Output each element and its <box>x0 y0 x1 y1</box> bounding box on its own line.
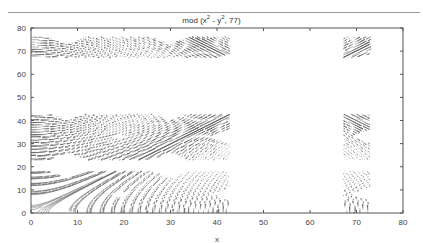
contour-lines <box>31 37 371 213</box>
x-tick-label: 60 <box>306 218 315 227</box>
y-tick-label: 80 <box>17 24 26 33</box>
x-tick-label: 80 <box>399 218 408 227</box>
contour-path <box>31 37 371 213</box>
y-tick-label: 70 <box>17 47 26 56</box>
y-tick-label: 40 <box>17 117 26 126</box>
x-axis-label: x <box>215 235 219 243</box>
y-tick-label: 60 <box>17 70 26 79</box>
x-tick-label: 50 <box>259 218 268 227</box>
x-tick-label: 40 <box>213 218 222 227</box>
y-tick-label: 0 <box>22 209 27 218</box>
y-tick-label: 20 <box>17 163 26 172</box>
contour-plot: 0102030405060708001020304050607080x <box>0 0 423 243</box>
y-tick-label: 50 <box>17 93 26 102</box>
y-tick-label: 10 <box>17 186 26 195</box>
x-tick-label: 10 <box>73 218 82 227</box>
x-tick-label: 30 <box>166 218 175 227</box>
y-tick-label: 30 <box>17 140 26 149</box>
x-tick-label: 0 <box>29 218 34 227</box>
x-tick-label: 20 <box>120 218 129 227</box>
x-tick-label: 70 <box>352 218 361 227</box>
